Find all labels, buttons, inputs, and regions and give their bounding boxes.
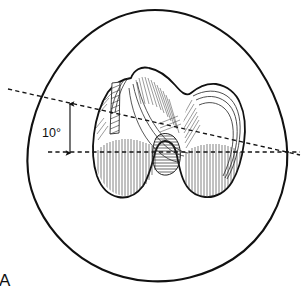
panel-label: A bbox=[0, 271, 11, 290]
figure-panel: 10° A bbox=[0, 0, 304, 291]
angle-label: 10° bbox=[42, 126, 61, 140]
anatomical-line-drawing: 10° A bbox=[0, 0, 304, 291]
